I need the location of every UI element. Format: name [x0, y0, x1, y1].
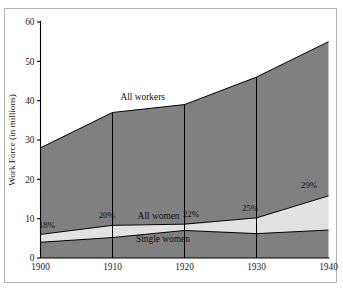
series-label-all-women: All women: [138, 211, 180, 221]
series-label-single-women: Single women: [136, 234, 190, 244]
x-tick-label-1940: 1940: [319, 262, 338, 272]
stacked-area-chart: 0102030405060 19001910192019301940 Work …: [0, 0, 343, 291]
x-tick-label-1910: 1910: [103, 262, 122, 272]
annotation-29pct: 29%: [301, 180, 318, 190]
y-tick-label-60: 60: [25, 17, 35, 27]
x-tick-label-1900: 1900: [31, 262, 50, 272]
y-tick-label-10: 10: [25, 214, 35, 224]
x-tick-label-1920: 1920: [175, 262, 194, 272]
annotation-20pct: 20%: [99, 210, 116, 220]
y-tick-label-50: 50: [25, 57, 35, 67]
x-tick-label-1930: 1930: [247, 262, 266, 272]
annotation-25pct: 25%: [242, 203, 259, 213]
series-label-all-workers: All workers: [120, 92, 165, 102]
y-tick-label-20: 20: [25, 175, 35, 185]
y-tick-label-40: 40: [25, 96, 35, 106]
plot-area-wrapper: 0102030405060 19001910192019301940 Work …: [0, 0, 343, 291]
chart-figure: 0102030405060 19001910192019301940 Work …: [0, 0, 343, 291]
annotation-22pct: 22%: [183, 209, 200, 219]
annotation-18pct: 18%: [39, 220, 56, 230]
y-axis-title: Work Force (in millions): [7, 94, 17, 185]
y-tick-label-30: 30: [25, 135, 35, 145]
x-axis-ticks: 19001910192019301940: [31, 262, 338, 272]
